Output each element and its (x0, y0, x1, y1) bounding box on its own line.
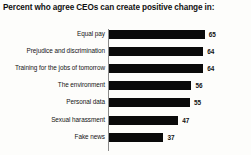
bar-row: Equal pay65 (0, 29, 251, 46)
bar-fill (109, 98, 190, 107)
bar-row: Prejudice and discrimination64 (0, 46, 251, 63)
bar-fill (109, 81, 191, 90)
category-label: Equal pay (1, 30, 105, 37)
bar (109, 133, 163, 142)
bar-value-label: 37 (167, 133, 174, 142)
bar (109, 98, 190, 107)
category-label: Personal data (1, 98, 105, 105)
category-label: Training for the jobs of tomorrow (1, 64, 105, 71)
chart-title: Percent who agree CEOs can create positi… (3, 3, 214, 12)
bar-chart: Percent who agree CEOs can create positi… (0, 0, 251, 155)
bar-row: Training for the jobs of tomorrow64 (0, 63, 251, 80)
category-label: The environment (1, 81, 105, 88)
bar-row: Personal data55 (0, 97, 251, 114)
plot-area: Equal pay65Prejudice and discrimination6… (0, 27, 251, 153)
bar-fill (109, 30, 205, 39)
category-label: Prejudice and discrimination (1, 47, 105, 54)
bar-value-label: 65 (209, 30, 216, 39)
bar-value-label: 55 (194, 98, 201, 107)
category-label: Fake news (1, 133, 105, 140)
bar-fill (109, 47, 203, 56)
category-label: Sexual harassment (1, 116, 105, 123)
bar-row: The environment56 (0, 80, 251, 97)
bar-fill (109, 64, 203, 73)
bar-value-label: 64 (207, 47, 214, 56)
bar (109, 81, 191, 90)
bar-row: Sexual harassment47 (0, 115, 251, 132)
bar-value-label: 56 (195, 81, 202, 90)
bar-fill (109, 116, 178, 125)
bar (109, 116, 178, 125)
bar-row: Fake news37 (0, 132, 251, 149)
bar (109, 30, 205, 39)
bar-value-label: 47 (182, 116, 189, 125)
bar (109, 47, 203, 56)
bar-value-label: 64 (207, 64, 214, 73)
bar-fill (109, 133, 163, 142)
bar (109, 64, 203, 73)
